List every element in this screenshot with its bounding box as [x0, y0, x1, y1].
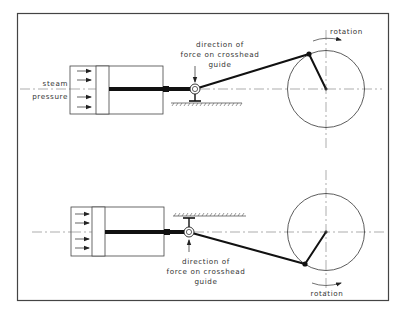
top-steam-label: steam	[43, 79, 68, 88]
bottom-crank-pin	[302, 261, 307, 266]
top-rotation-label: rotation	[330, 27, 363, 36]
bottom-engine-diagram: direction of force on crosshead guide ro…	[32, 170, 384, 298]
steam-engine-crosshead-diagram: steam pressure direction of force on cro…	[0, 0, 406, 316]
top-piston	[96, 66, 109, 114]
top-engine-diagram: steam pressure direction of force on cro…	[20, 27, 382, 150]
bottom-crosshead-guide	[173, 213, 246, 216]
top-crosshead	[190, 84, 200, 94]
top-crank-pin	[306, 51, 311, 56]
bottom-rotation-label: rotation	[311, 289, 344, 298]
top-crank-arm	[309, 54, 326, 89]
bottom-crank-arm	[305, 232, 326, 264]
bottom-crosshead	[184, 227, 194, 237]
bottom-force-label-line3: guide	[194, 277, 217, 286]
bottom-force-label-line1: direction of	[182, 257, 230, 266]
top-force-label-line1: direction of	[196, 40, 244, 49]
bottom-rotation-arrow-icon	[312, 283, 341, 286]
bottom-force-label-line2: force on crosshead	[167, 267, 246, 276]
top-force-label-line2: force on crosshead	[181, 50, 260, 59]
bottom-piston	[92, 207, 105, 256]
top-rotation-arrow-icon	[313, 38, 341, 41]
top-pressure-label: pressure	[32, 92, 68, 101]
top-crosshead-guide	[171, 103, 242, 106]
top-force-label-line3: guide	[208, 60, 231, 69]
